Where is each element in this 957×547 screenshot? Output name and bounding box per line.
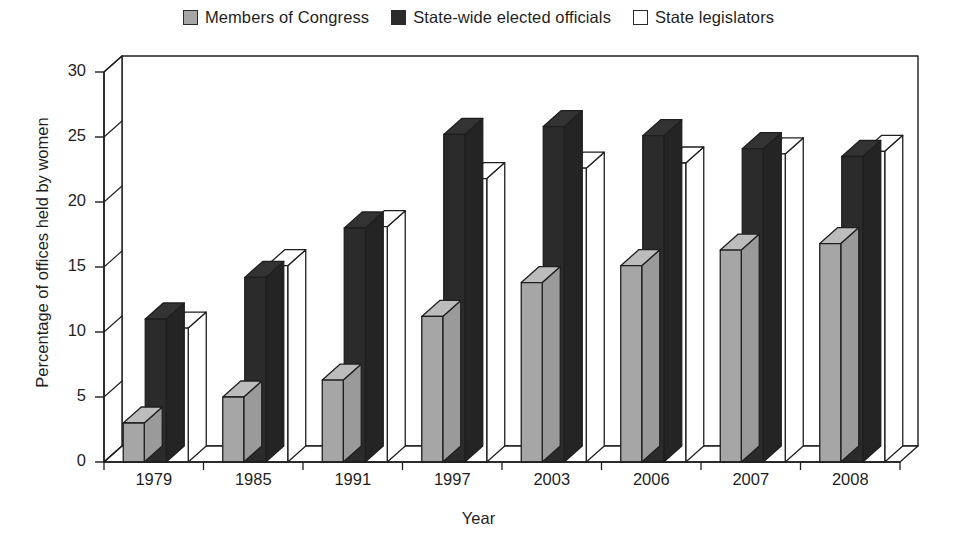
y-tick-label: 10 xyxy=(46,321,86,340)
y-tick-label: 5 xyxy=(46,386,86,405)
bar-side xyxy=(642,250,660,462)
x-tick-label: 2003 xyxy=(512,470,592,489)
bar-side xyxy=(443,300,461,462)
bar-side xyxy=(885,135,903,462)
bar-front xyxy=(820,244,841,462)
bar-side xyxy=(542,267,560,462)
x-tick-label: 1991 xyxy=(313,470,393,489)
bar-members-of-congress-2003 xyxy=(521,267,560,462)
bar-side xyxy=(586,152,604,462)
bar-front xyxy=(521,283,542,462)
bar-side xyxy=(841,228,859,462)
bar-side xyxy=(343,364,361,462)
bar-members-of-congress-2008 xyxy=(820,228,859,462)
bar-members-of-congress-1991 xyxy=(322,364,361,462)
bar-members-of-congress-2007 xyxy=(720,234,759,462)
x-tick-label: 1985 xyxy=(213,470,293,489)
bar-chart: Members of Congress State-wide elected o… xyxy=(0,0,957,547)
bar-front xyxy=(621,266,642,462)
bar-side xyxy=(365,212,383,462)
x-tick-label: 2006 xyxy=(611,470,691,489)
y-tick-label: 0 xyxy=(46,451,86,470)
y-tick-label: 15 xyxy=(46,256,86,275)
bar-members-of-congress-1997 xyxy=(422,300,461,462)
x-tick-label: 1979 xyxy=(114,470,194,489)
chart-canvas xyxy=(0,0,957,547)
bar-side xyxy=(188,312,206,462)
bar-side xyxy=(166,303,184,462)
bar-side xyxy=(785,138,803,462)
bar-side xyxy=(686,147,704,462)
bar-side xyxy=(664,120,682,462)
x-tick-label: 1997 xyxy=(412,470,492,489)
bar-front xyxy=(422,316,443,462)
bar-side xyxy=(465,118,483,462)
bar-front xyxy=(322,380,343,462)
plot-area: 051015202530 197919851991199720032006200… xyxy=(0,0,957,547)
y-tick-label: 30 xyxy=(46,61,86,80)
bar-side xyxy=(387,211,405,462)
bar-side xyxy=(288,250,306,462)
x-tick-label: 2008 xyxy=(810,470,890,489)
bar-side xyxy=(487,163,505,462)
bar-front xyxy=(720,250,741,462)
bar-front xyxy=(223,397,244,462)
bar-members-of-congress-1985 xyxy=(223,381,262,462)
y-tick-label: 20 xyxy=(46,191,86,210)
bar-front xyxy=(123,423,144,462)
y-tick-label: 25 xyxy=(46,126,86,145)
bar-side xyxy=(266,261,284,462)
bar-side xyxy=(863,141,881,463)
bar-side xyxy=(741,234,759,462)
bar-side xyxy=(763,133,781,462)
x-tick-label: 2007 xyxy=(711,470,791,489)
bar-side xyxy=(564,111,582,462)
bar-members-of-congress-2006 xyxy=(621,250,660,462)
